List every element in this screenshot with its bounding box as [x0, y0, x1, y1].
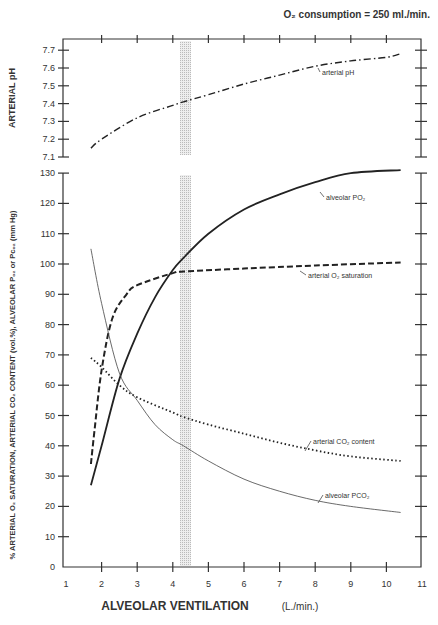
- y-tick-label: 110: [41, 229, 55, 239]
- ph-tick-label: 7.4: [42, 99, 55, 109]
- x-tick-label: 8: [313, 579, 318, 589]
- ph-tick-label: 7.2: [42, 134, 55, 144]
- label-arterial-ph: arterial pH: [322, 69, 354, 77]
- y-tick-label: 10: [45, 532, 55, 542]
- y-tick-label: 100: [40, 259, 55, 269]
- label-alveolar-po2: alveolar PO₂: [326, 194, 366, 201]
- x-axis-units: (L./min.): [282, 601, 319, 612]
- x-tick-label: 3: [135, 579, 140, 589]
- chart-title: O₂ consumption = 250 ml./min.: [284, 9, 431, 20]
- normal-ventilation-band: [180, 41, 191, 566]
- y-tick-label: 60: [45, 380, 55, 390]
- ph-tick-label: 7.7: [42, 45, 55, 55]
- ph-tick-label: 7.3: [42, 116, 55, 126]
- curve-arterial-co2-content: [91, 358, 401, 461]
- y-tick-label: 70: [45, 350, 55, 360]
- x-tick-label: 7: [277, 579, 282, 589]
- chart-text: 7.17.27.37.47.57.67.70102030405060708090…: [7, 9, 430, 613]
- y-tick-label: 90: [45, 289, 55, 299]
- x-tick-label: 2: [99, 579, 104, 589]
- ph-axis-title: ARTERIAL pH: [7, 68, 17, 128]
- ventilation-chart: 7.17.27.37.47.57.67.70102030405060708090…: [0, 0, 438, 625]
- ph-tick-label: 7.1: [42, 152, 55, 162]
- y-tick-label: 50: [45, 411, 55, 421]
- y-tick-label: 130: [40, 168, 55, 178]
- y-tick-label: 20: [45, 501, 55, 511]
- y-tick-label: 30: [45, 471, 55, 481]
- curve-alveolar-pco2: [91, 249, 401, 513]
- y-tick-label: 80: [45, 320, 55, 330]
- ph-tick-label: 7.5: [42, 81, 55, 91]
- x-tick-label: 1: [63, 579, 68, 589]
- label-arterial-o2-saturation: arterial O₂ saturation: [308, 272, 372, 279]
- x-tick-label: 4: [170, 579, 175, 589]
- y-tick-label: 40: [45, 441, 55, 451]
- label-alveolar-pco2: alveolar PCO₂: [325, 492, 370, 499]
- x-axis-title: ALVEOLAR VENTILATION: [101, 599, 249, 613]
- y-tick-label: 120: [40, 198, 55, 208]
- label-arterial-co2-content: arterial CO₂ content: [313, 438, 375, 445]
- axes-frame: [58, 35, 427, 572]
- ph-tick-label: 7.6: [42, 63, 55, 73]
- left-axis-title: % ARTERIAL O₂ SATURATION, ARTERIAL CO₂ C…: [8, 210, 17, 559]
- x-tick-label: 5: [206, 579, 211, 589]
- x-tick-label: 9: [348, 579, 353, 589]
- x-tick-label: 10: [381, 579, 391, 589]
- curve-arterial-o2-saturation: [91, 262, 401, 463]
- y-tick-label: 0: [50, 562, 55, 572]
- curve-arterial-ph: [91, 54, 401, 148]
- x-tick-label: 6: [241, 579, 246, 589]
- x-tick-label: 11: [417, 579, 426, 589]
